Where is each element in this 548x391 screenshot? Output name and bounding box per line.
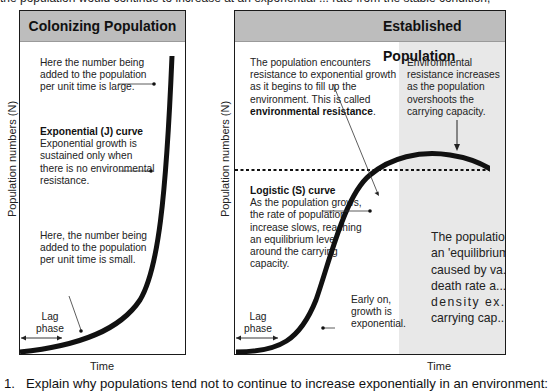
s-curve [236,154,490,352]
j-curve [20,56,172,352]
question-1: 1. Explain why populations tend not to c… [4,376,548,391]
